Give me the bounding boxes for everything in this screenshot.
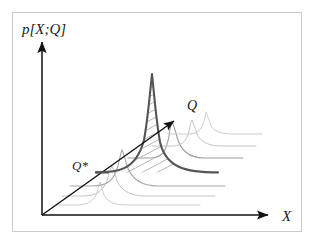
q-star-label: Q*	[72, 158, 88, 173]
figure-container: p[X;Q] X Q Q*	[0, 0, 314, 244]
density-family-figure: p[X;Q] X Q Q*	[0, 0, 314, 244]
x-axis-label: X	[281, 208, 292, 224]
y-axis-label: p[X;Q]	[21, 21, 66, 37]
q-arrow-label: Q	[187, 98, 197, 113]
